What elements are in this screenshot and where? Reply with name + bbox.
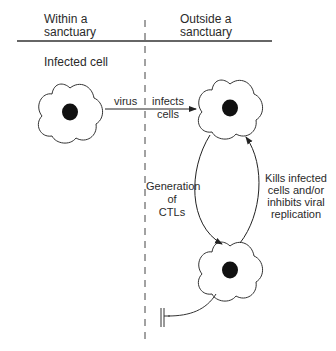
kills-line1: Kills infected: [260, 172, 332, 184]
infects-line1: infects: [147, 95, 189, 108]
kills-line2: cells and/or: [260, 184, 332, 196]
infects-cells-label: infects cells: [147, 95, 189, 121]
virus-label: virus: [114, 95, 137, 108]
inhibition-line: [168, 294, 216, 316]
infected-cell-label: Infected cell: [44, 56, 108, 69]
ctl-cell: [198, 242, 262, 301]
header-outside-sanctuary: Outside a sanctuary: [180, 13, 232, 39]
kills-infected-label: Kills infected cells and/or inhibits vir…: [260, 172, 332, 220]
generation-ctl-label: Generation of CTLs: [146, 180, 198, 219]
header-within-sanctuary: Within a sanctuary: [44, 13, 96, 39]
header-left-line2: sanctuary: [44, 26, 96, 39]
generation-line3: CTLs: [146, 206, 198, 219]
kills-line4: replication: [260, 208, 332, 220]
kills-infected-arrow: [240, 137, 259, 243]
generation-line2: of: [146, 193, 198, 206]
kills-line3: inhibits viral: [260, 196, 332, 208]
header-right-line2: sanctuary: [180, 26, 232, 39]
infected-cell-sanctuary: [38, 84, 102, 143]
infected-cell-outside: [198, 80, 262, 139]
generation-line1: Generation: [146, 180, 198, 193]
infects-line2: cells: [147, 108, 189, 121]
